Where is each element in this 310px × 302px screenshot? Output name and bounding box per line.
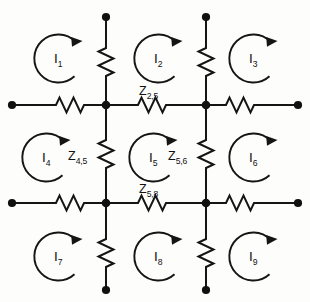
resistor-Z56 (199, 105, 214, 203)
resistor-bottom-right-column (199, 203, 214, 290)
mesh-current-label-I9: I9 (249, 249, 257, 267)
impedance-label-Z25: Z2,5 (139, 84, 158, 101)
right-column-top-branch (199, 17, 214, 105)
circuit-diagram: I1 I2 I3 I4 I5 I6 I7 I8 I9 Z2,5 Z4,5 Z5,… (0, 0, 310, 302)
right-column-bottom-branch (199, 203, 214, 290)
resistor-top-right-column (199, 17, 214, 105)
terminal-node-left-lower (8, 199, 16, 207)
mesh-current-sub-I5: 5 (153, 158, 158, 168)
terminal-node-bottom-right (202, 286, 210, 294)
terminal-node-right-upper (294, 101, 302, 109)
mesh-current-sub-I1: 1 (58, 59, 63, 69)
impedance-label-Z58: Z5,8 (139, 182, 158, 199)
mesh-current-sub-I4: 4 (46, 158, 51, 168)
resistor-upper-right (206, 98, 298, 113)
impedance-base-Z25: Z (139, 84, 147, 98)
upper-horizontal-branch-right (206, 98, 298, 113)
mesh-current-sub-I9: 9 (253, 257, 258, 267)
impedance-sub-Z25: 2,5 (147, 91, 159, 101)
mesh-current-label-I5: I5 (149, 150, 157, 168)
mesh-current-label-I2: I2 (154, 51, 162, 69)
resistor-upper-left (52, 98, 106, 113)
terminal-node-left-upper (8, 101, 16, 109)
lower-horizontal-branch-left (12, 196, 106, 211)
left-column-top-branch (99, 17, 114, 105)
right-column-middle-branch (199, 105, 214, 203)
impedance-base-Z45: Z (68, 149, 76, 163)
left-column-bottom-branch (99, 203, 114, 290)
junction-node-upper-left (102, 101, 111, 110)
junction-node-lower-left (102, 199, 111, 208)
impedance-base-Z58: Z (139, 182, 147, 196)
junction-node-lower-right (202, 199, 211, 208)
resistor-lower-right (206, 196, 298, 211)
mesh-current-sub-I2: 2 (158, 59, 163, 69)
resistor-Z45 (99, 105, 114, 203)
resistor-bottom-left-column (99, 203, 114, 290)
mesh-current-label-I6: I6 (249, 150, 257, 168)
mesh-current-sub-I8: 8 (158, 257, 163, 267)
mesh-current-sub-I6: 6 (253, 158, 258, 168)
mesh-current-label-I4: I4 (42, 150, 50, 168)
mesh-current-label-I8: I8 (154, 249, 162, 267)
impedance-base-Z56: Z (168, 149, 176, 163)
junction-node-upper-right (202, 101, 211, 110)
left-column-middle-branch (99, 105, 114, 203)
terminal-node-top-left (102, 13, 110, 21)
impedance-sub-Z56: 5,6 (176, 156, 188, 166)
lower-horizontal-branch-right (206, 196, 298, 211)
upper-horizontal-branch-left (12, 98, 106, 113)
mesh-current-label-I7: I7 (54, 249, 62, 267)
mesh-current-sub-I7: 7 (58, 257, 63, 267)
mesh-current-label-I1: I1 (54, 51, 62, 69)
mesh-current-label-I3: I3 (249, 51, 257, 69)
resistor-lower-left (52, 196, 106, 211)
impedance-label-Z56: Z5,6 (168, 149, 187, 166)
terminal-node-bottom-left (102, 286, 110, 294)
resistor-top-left-column (99, 17, 114, 105)
terminal-node-right-lower (294, 199, 302, 207)
impedance-label-Z45: Z4,5 (68, 149, 87, 166)
terminal-node-top-right (202, 13, 210, 21)
mesh-current-sub-I3: 3 (253, 59, 258, 69)
impedance-sub-Z45: 4,5 (76, 156, 88, 166)
impedance-sub-Z58: 5,8 (147, 189, 159, 199)
